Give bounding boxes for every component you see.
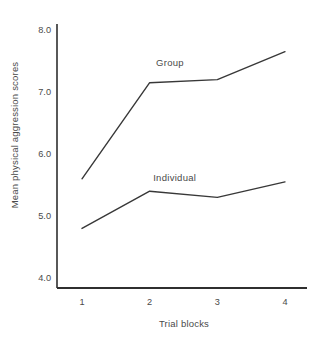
series-line-group: [82, 52, 285, 179]
series-label-group: Group: [156, 57, 184, 68]
series-line-individual: [82, 182, 285, 229]
y-tick-label: 4.0: [38, 273, 51, 283]
y-tick-label: 8.0: [38, 25, 51, 35]
y-tick-label: 6.0: [38, 149, 51, 159]
y-axis-title: Mean physical aggression scores: [9, 62, 20, 209]
y-tick-label: 7.0: [38, 87, 51, 97]
plot-area: 8.07.06.05.04.01234GroupIndividual: [0, 0, 318, 347]
x-tick-label: 1: [79, 297, 84, 307]
y-tick-label: 5.0: [38, 211, 51, 221]
series-label-individual: Individual: [153, 172, 196, 183]
aggression-chart-figure: 8.07.06.05.04.01234GroupIndividual Mean …: [0, 0, 318, 347]
x-tick-label: 4: [282, 297, 287, 307]
x-axis-title: Trial blocks: [159, 318, 209, 329]
x-tick-label: 2: [147, 297, 152, 307]
x-tick-label: 3: [215, 297, 220, 307]
